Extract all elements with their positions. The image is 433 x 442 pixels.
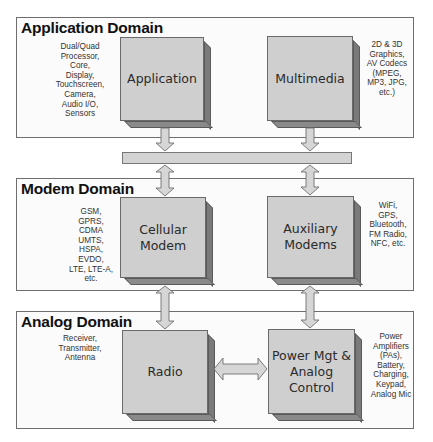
analog-domain-title: Analog Domain: [21, 313, 132, 331]
modem-domain-title: Modem Domain: [21, 180, 134, 198]
cellular-modem-block: Cellular Modem: [120, 197, 206, 278]
cellular-note: GSM, GPRS, CDMA UMTS, HSPA, EVDO, LTE, L…: [68, 207, 114, 284]
multimedia-block: Multimedia: [267, 36, 353, 121]
interconnect-bus: [122, 152, 352, 164]
radio-block: Radio: [122, 330, 208, 414]
power-mgt-note: Power Amplifiers (PAs), Battery, Chargin…: [369, 332, 413, 399]
auxiliary-modems-block: Auxiliary Modems: [267, 196, 354, 278]
application-domain-title: Application Domain: [21, 19, 163, 37]
application-note: Dual/Quad Processor, Core, Display, Touc…: [50, 42, 110, 119]
radio-note: Receiver, Transmitter, Antenna: [52, 334, 108, 363]
multimedia-note: 2D & 3D Graphics, AV Codecs (MPEG, MP3, …: [360, 40, 414, 98]
auxiliary-note: WiFi, GPS, Bluetooth, FM Radio, NFC, etc…: [365, 201, 411, 249]
power-mgt-block: Power Mgt & Analog Control: [268, 329, 355, 414]
application-block: Application: [120, 37, 204, 121]
